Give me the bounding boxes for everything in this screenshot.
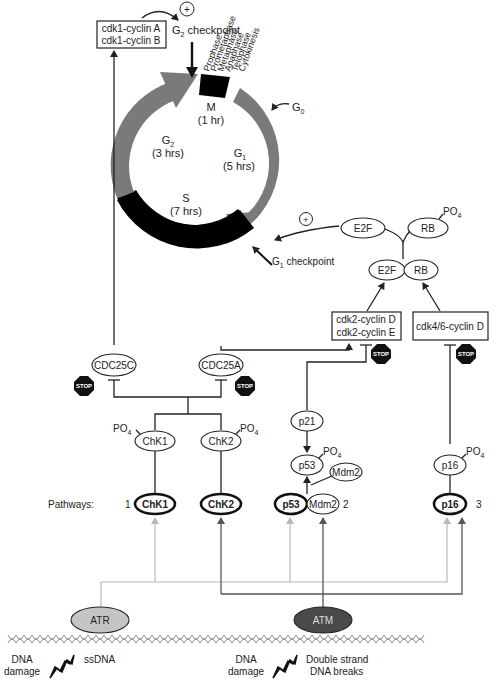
- cdk1-cyclin-a: cdk1-cyclin A: [102, 23, 161, 34]
- damage-left-line2: damage: [4, 666, 41, 677]
- e2f-free-label: E2F: [354, 223, 372, 234]
- p16-phos-label: p16: [442, 460, 459, 471]
- pathway-chk2-label: ChK2: [208, 499, 235, 510]
- plus-symbol: +: [184, 4, 190, 15]
- p16-po4-label: PO4: [466, 446, 484, 459]
- damage-right-line1: DNA: [235, 654, 256, 665]
- cdk2-cyclin-e: cdk2-cyclin E: [337, 327, 396, 338]
- cdk1-cyclin-b: cdk1-cyclin B: [102, 35, 161, 46]
- pathway-mdm2-label: Mdm2: [309, 499, 337, 510]
- damage-left-line1: DNA: [11, 654, 32, 665]
- mdm2-free-label: Mdm2: [332, 467, 360, 478]
- atm-label: ATM: [313, 615, 333, 626]
- cdk46-cyclin-d: cdk4/6-cyclin D: [416, 321, 484, 332]
- cdk2-to-e2f-arrow: [367, 283, 384, 311]
- lightning-icon: [273, 655, 297, 678]
- plus-symbol: +: [303, 215, 308, 225]
- cell-cycle-ring: M (1 hr) G1 (5 hrs) S (7 hrs) G2 (3 hrs): [111, 72, 280, 248]
- rb-po4-label: PO4: [443, 206, 461, 219]
- e2f-rb-release: + E2F RB PO4 E2F RB: [275, 206, 461, 280]
- g0-arrow: [272, 104, 289, 110]
- g1-checkpoint-arrow: [253, 247, 272, 265]
- atr-label: ATR: [90, 615, 109, 626]
- m-duration: (1 hr): [198, 114, 224, 126]
- pathways-label: Pathways:: [48, 499, 94, 510]
- g0-label: G0: [292, 101, 305, 115]
- p21-label: p21: [299, 416, 316, 427]
- g1-label: G1: [234, 147, 247, 161]
- m-subphases: Prophase Prometaphase Metaphase Anaphase…: [201, 14, 261, 72]
- dna-damage-right: DNA damage Double strand DNA breaks: [228, 654, 368, 678]
- cdk46-box: cdk4/6-cyclin D: [413, 283, 488, 340]
- rb-phos-label: RB: [421, 223, 435, 234]
- lightning-icon: [50, 655, 74, 678]
- damage-right-line2: damage: [228, 666, 265, 677]
- pathway-p16-label: p16: [441, 499, 459, 510]
- pathways-row: Pathways: 1 ChK1 ChK2 p53 Mdm2 2 p16 3: [48, 494, 482, 514]
- damage-right-type-line2: DNA breaks: [310, 666, 363, 677]
- cdk2-cyclin-d: cdk2-cyclin D: [336, 314, 395, 325]
- svg-text:STOP: STOP: [458, 351, 474, 357]
- m-label: M: [206, 101, 215, 113]
- svg-text:STOP: STOP: [76, 383, 92, 389]
- rb-bound-label: RB: [414, 265, 428, 276]
- g1-checkpoint-label: G1 checkpoint: [272, 256, 334, 269]
- split-connector: [385, 229, 410, 242]
- p21-inhibits-cdk2: [307, 345, 366, 410]
- cell-cycle-diagram: M (1 hr) G1 (5 hrs) S (7 hrs) G2 (3 hrs)…: [0, 0, 497, 687]
- s-label: S: [182, 192, 189, 204]
- svg-text:STOP: STOP: [237, 383, 253, 389]
- chk1-phos-label: ChK1: [142, 436, 167, 447]
- g0-indicator: G0: [272, 101, 305, 115]
- pathway-3-number: 3: [476, 499, 482, 510]
- pathway-p53-label: p53: [282, 499, 300, 510]
- p53-po4-label: PO4: [323, 446, 341, 459]
- cdc25c-label: CDC25C: [94, 360, 134, 371]
- cdk1-to-g2-arrow: [142, 11, 178, 20]
- stop-sign-cdc25c: STOP: [74, 376, 94, 396]
- cdc25a-to-cdk2-arrow: [221, 344, 349, 350]
- atm-signal-lines: [221, 518, 462, 618]
- g1-duration: (5 hrs): [223, 160, 255, 172]
- pathway-2-number: 2: [343, 499, 349, 510]
- pathway-chk1-label: ChK1: [142, 499, 169, 510]
- g2-duration: (3 hrs): [152, 147, 184, 159]
- cdc25a-label: CDC25A: [201, 360, 241, 371]
- cdk2-box: cdk2-cyclin D cdk2-cyclin E: [332, 283, 401, 340]
- svg-text:STOP: STOP: [373, 351, 389, 357]
- stop-sign-cdk46: STOP: [456, 344, 476, 364]
- stop-sign-cdk2: STOP: [371, 344, 391, 364]
- cdk46-to-rb-arrow: [423, 283, 440, 311]
- damage-right-type-line1: Double strand: [306, 654, 368, 665]
- g2-label: G2: [162, 134, 175, 148]
- chk1-po4-label: PO4: [113, 423, 131, 436]
- chk-inhibits-cdc25: [114, 380, 221, 397]
- dna-helix: [8, 635, 424, 643]
- e2f-bound-label: E2F: [378, 265, 396, 276]
- chk2-phos-label: ChK2: [208, 436, 233, 447]
- s-duration: (7 hrs): [170, 205, 202, 217]
- g1-checkpoint: G1 checkpoint: [253, 247, 334, 269]
- e2f-to-g1-arrow: [275, 226, 339, 240]
- g2-checkpoint-label: G2 checkpoint: [172, 24, 240, 38]
- stop-sign-cdc25a: STOP: [235, 376, 255, 396]
- dna-damage-left: DNA damage ssDNA: [4, 654, 116, 678]
- cdk1-box: cdk1-cyclin A cdk1-cyclin B: [97, 21, 166, 48]
- atr-signal-lines: [101, 518, 447, 618]
- p53-phos-label: p53: [299, 460, 316, 471]
- pathway-1-number: 1: [125, 499, 131, 510]
- chk2-po4-label: PO4: [240, 423, 258, 436]
- damage-left-type: ssDNA: [84, 654, 115, 665]
- m-block: [199, 74, 230, 98]
